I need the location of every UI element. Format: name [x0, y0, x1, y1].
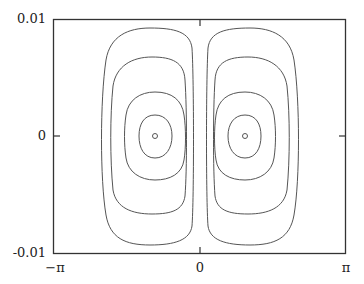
axis-ticks: [54, 20, 346, 254]
right-lobe-contours: [207, 28, 299, 245]
left-lobe-contours: [102, 28, 194, 245]
contour-left-3: [125, 92, 186, 180]
contour-right-1: [243, 134, 248, 139]
contour-right-5: [207, 28, 299, 245]
contour-left-2: [139, 115, 172, 158]
contour-plot: [0, 0, 364, 284]
x-tick-label-left: −π: [40, 260, 70, 275]
x-tick-label-right: π: [331, 260, 361, 275]
contour-right-2: [228, 115, 261, 158]
contour-left-5: [102, 28, 194, 245]
contour-left-1: [153, 134, 158, 139]
contour-right-4: [214, 57, 290, 214]
plot-frame: [54, 20, 346, 254]
contour-right-3: [215, 92, 276, 180]
y-tick-label-zero: 0: [6, 128, 46, 143]
y-tick-label-bottom: -0.01: [6, 245, 46, 260]
x-tick-label-zero: 0: [185, 260, 215, 275]
y-tick-label-top: 0.01: [6, 11, 46, 26]
contour-left-4: [111, 57, 187, 214]
